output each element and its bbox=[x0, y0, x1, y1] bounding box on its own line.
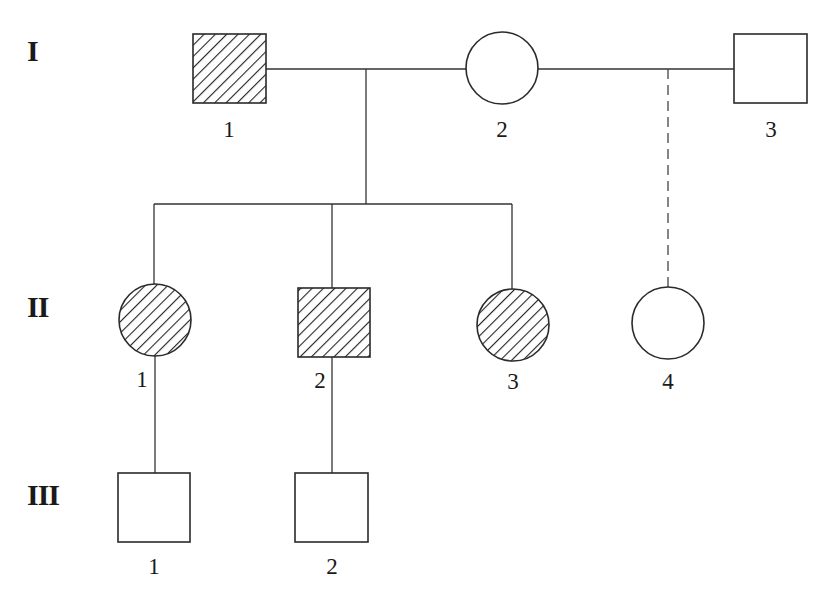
individual-number-II3: 3 bbox=[507, 370, 519, 393]
individual-number-I1: 1 bbox=[223, 118, 235, 141]
individual-I1-affected-male bbox=[193, 34, 266, 103]
generation-label-II: II bbox=[27, 292, 48, 322]
individual-I3-male bbox=[734, 34, 807, 103]
individual-number-I3: 3 bbox=[765, 118, 777, 141]
individual-number-II1: 1 bbox=[136, 368, 148, 391]
individual-III1-male bbox=[118, 473, 190, 542]
generation-label-I: I bbox=[27, 36, 38, 66]
individual-II4-female bbox=[632, 287, 704, 359]
individual-II2-affected-male bbox=[298, 288, 370, 357]
individual-number-III2: 2 bbox=[326, 555, 338, 578]
generation-label-III: III bbox=[27, 480, 59, 510]
individual-III2-male bbox=[295, 473, 368, 542]
individual-II1-affected-female bbox=[119, 284, 191, 356]
individual-number-II2: 2 bbox=[314, 369, 326, 392]
individual-number-II4: 4 bbox=[662, 370, 674, 393]
individual-number-III1: 1 bbox=[148, 555, 160, 578]
pedigree-svg bbox=[0, 0, 836, 604]
individual-number-I2: 2 bbox=[496, 118, 508, 141]
pedigree-chart: I II III 1 2 3 1 2 3 4 1 2 bbox=[0, 0, 836, 604]
individual-I2-female bbox=[466, 32, 538, 104]
individual-II3-affected-female bbox=[477, 289, 549, 361]
